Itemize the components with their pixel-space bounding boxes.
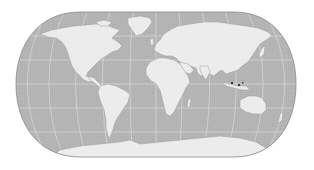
- world-map: [0, 0, 314, 170]
- world-map-svg: [0, 0, 314, 170]
